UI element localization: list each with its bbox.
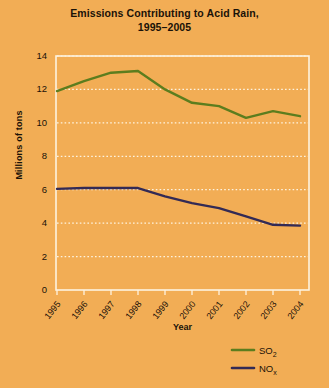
- chart-canvas: 02468101214 1995199619971998199920002001…: [0, 0, 329, 388]
- x-axis-tick-label: 2003: [258, 299, 278, 321]
- x-axis-tick-label: 1995: [42, 299, 62, 321]
- y-axis-tick-label: 6: [42, 184, 47, 195]
- series-line-SO2: [57, 71, 300, 118]
- y-axis-tick-label: 8: [42, 150, 47, 161]
- x-axis-tick-label: 1996: [69, 299, 89, 321]
- x-axis-tick-label: 1997: [96, 299, 116, 321]
- acid-rain-emissions-chart: Emissions Contributing to Acid Rain, 199…: [0, 0, 329, 388]
- x-axis-tick-label: 2001: [204, 299, 224, 321]
- y-axis-ticks: 02468101214: [36, 50, 47, 295]
- x-axis-tick-label: 1999: [150, 299, 170, 321]
- y-axis-tick-label: 12: [36, 83, 47, 94]
- y-axis-tick-label: 2: [42, 251, 47, 262]
- x-axis-tick-label: 2002: [231, 299, 251, 321]
- y-axis-tick-label: 4: [42, 217, 47, 228]
- x-axis-ticks: 1995199619971998199920002001200220032004: [42, 290, 305, 321]
- x-axis-tick-label: 1998: [123, 299, 143, 321]
- data-series-layer: [57, 71, 300, 226]
- plot-border: [56, 56, 309, 290]
- y-axis-tick-label: 0: [42, 284, 47, 295]
- plot-area: 02468101214 1995199619971998199920002001…: [36, 50, 309, 321]
- gridlines: [57, 56, 308, 257]
- y-axis-tick-label: 14: [36, 50, 47, 61]
- legend-label-SO2: SO2: [259, 345, 277, 358]
- series-line-NOx: [57, 188, 300, 226]
- y-axis-tick-label: 10: [36, 117, 47, 128]
- legend-label-NOx: NOx: [259, 363, 277, 376]
- x-axis-tick-label: 2000: [177, 299, 197, 321]
- x-axis-tick-label: 2004: [285, 299, 305, 321]
- legend: SO2NOx: [232, 345, 277, 376]
